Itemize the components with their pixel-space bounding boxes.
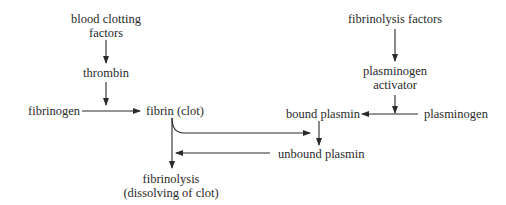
- node-fibrinolysis: fibrinolysis (dissolving of clot): [123, 172, 218, 200]
- node-label: blood clotting: [71, 12, 141, 26]
- node-blood-clotting-factors: blood clotting factors: [71, 12, 141, 40]
- node-thrombin: thrombin: [83, 66, 129, 80]
- node-label: fibrinolysis: [123, 172, 218, 186]
- fibrinolysis-diagram: blood clotting factors thrombin fibrinog…: [0, 0, 506, 205]
- node-bound-plasmin: bound plasmin: [286, 107, 360, 121]
- node-fibrinogen: fibrinogen: [28, 104, 80, 118]
- node-label: (dissolving of clot): [123, 186, 218, 200]
- node-unbound-plasmin: unbound plasmin: [278, 147, 364, 161]
- node-label: plasminogen: [363, 64, 427, 78]
- node-plasminogen-activator: plasminogen activator: [363, 64, 427, 92]
- node-label: activator: [363, 78, 427, 92]
- node-label: factors: [71, 26, 141, 40]
- node-fibrin-clot: fibrin (clot): [146, 104, 204, 118]
- node-plasminogen: plasminogen: [424, 107, 488, 121]
- node-fibrinolysis-factors: fibrinolysis factors: [348, 12, 442, 26]
